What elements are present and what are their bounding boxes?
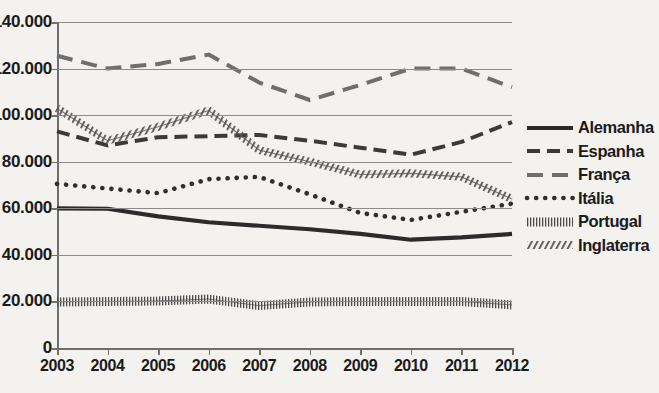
legend-item-inglaterra[interactable]: Inglaterra — [527, 234, 659, 258]
gridline — [57, 162, 512, 163]
x-axis-tick-label: 2004 — [91, 357, 125, 375]
y-axis-tick — [51, 115, 58, 117]
legend-swatch-icon — [527, 191, 573, 205]
legend-label: França — [578, 165, 630, 184]
y-axis-tick — [51, 22, 58, 24]
gridline — [57, 69, 512, 70]
x-axis-tick — [411, 348, 413, 355]
legend-swatch-icon — [527, 168, 573, 182]
x-axis-tick-label: 2012 — [495, 357, 529, 375]
x-axis-tick — [259, 348, 261, 355]
y-axis-tick-label: 120.000 — [0, 59, 52, 79]
x-axis-tick-label: 2008 — [293, 357, 327, 375]
y-axis-tick-label: 40.000 — [2, 245, 52, 265]
y-axis-label-group: 020.00040.00060.00080.000100.000120.0001… — [0, 0, 52, 393]
legend-label: Itália — [578, 189, 613, 208]
x-axis-line — [57, 348, 513, 350]
x-axis-tick-label: 2003 — [40, 357, 74, 375]
x-axis-tick-label: 2010 — [394, 357, 428, 375]
legend-item-espanha[interactable]: Espanha — [527, 140, 659, 164]
chart-legend: AlemanhaEspanhaFrançaItáliaPortugalIngla… — [527, 116, 659, 257]
y-axis-tick — [51, 255, 58, 257]
legend-label: Espanha — [578, 142, 644, 161]
y-axis-tick — [51, 69, 58, 71]
x-axis-tick-label: 2011 — [445, 357, 478, 375]
legend-swatch-icon — [527, 121, 573, 135]
x-axis-tick-label: 2009 — [343, 357, 377, 375]
legend-swatch-icon — [527, 144, 573, 158]
gridline — [57, 255, 512, 256]
x-axis-tick — [158, 348, 160, 355]
x-axis-tick-label: 2006 — [192, 357, 226, 375]
legend-label: Portugal — [578, 212, 642, 231]
legend-swatch-icon — [527, 215, 573, 229]
gridline — [57, 115, 512, 116]
x-axis-tick — [108, 348, 110, 355]
x-axis-tick-label: 2007 — [242, 357, 276, 375]
series-alemanha — [57, 208, 512, 239]
legend-label: Alemanha — [578, 118, 654, 137]
x-axis-tick — [360, 348, 362, 355]
y-axis-tick-label: 80.000 — [2, 152, 52, 172]
legend-label: Inglaterra — [578, 236, 649, 255]
y-axis-tick-label: 60.000 — [2, 198, 52, 218]
line-chart: 020.00040.00060.00080.000100.000120.0001… — [0, 0, 659, 393]
y-axis-tick-label: 20.000 — [2, 291, 52, 311]
legend-swatch-icon — [527, 238, 573, 252]
x-axis-tick — [209, 348, 211, 355]
series-svg — [57, 22, 512, 348]
x-axis-tick — [461, 348, 463, 355]
gridline — [57, 301, 512, 302]
y-axis-tick — [51, 208, 58, 210]
y-axis-tick-label: 140.000 — [0, 12, 52, 32]
y-axis-tick — [51, 301, 58, 303]
gridline — [57, 22, 512, 23]
x-axis-tick — [310, 348, 312, 355]
legend-item-frana[interactable]: França — [527, 163, 659, 187]
legend-item-alemanha[interactable]: Alemanha — [527, 116, 659, 140]
gridline — [57, 208, 512, 209]
series-frana — [57, 55, 512, 100]
x-axis-tick-label: 2005 — [141, 357, 175, 375]
y-axis-tick — [51, 162, 58, 164]
legend-item-portugal[interactable]: Portugal — [527, 210, 659, 234]
series-inglaterra — [57, 108, 512, 199]
x-axis-tick — [512, 348, 514, 355]
x-axis-tick — [57, 348, 59, 355]
legend-item-itlia[interactable]: Itália — [527, 187, 659, 211]
y-axis-tick-label: 100.000 — [0, 105, 52, 125]
plot-area — [57, 22, 512, 348]
